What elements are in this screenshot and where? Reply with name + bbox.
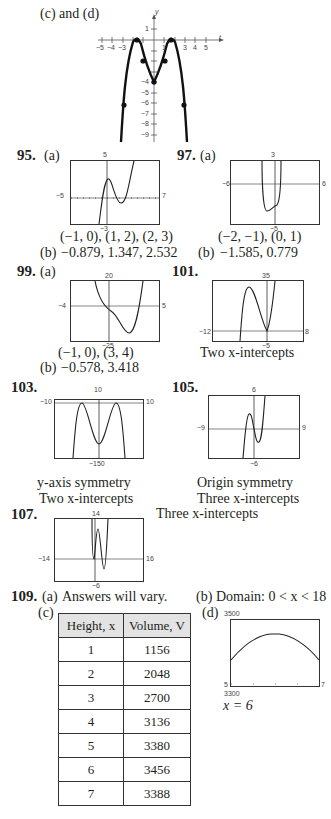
problem-number-103: 103. bbox=[11, 379, 37, 396]
problem-number-99: 99. bbox=[17, 263, 36, 280]
answer-109a: Answers will vary. bbox=[62, 589, 167, 605]
window-ymin: −6 bbox=[92, 582, 100, 589]
window-ymin: −150 bbox=[89, 460, 105, 467]
calculator-screen-95 bbox=[70, 160, 160, 225]
table-row: 43136 bbox=[59, 710, 191, 734]
y-tick: −7 bbox=[141, 110, 149, 117]
window-xmin: 5 bbox=[224, 681, 228, 688]
part-a-label: (a) bbox=[40, 264, 56, 280]
zeros-99: −0.578, 3.418 bbox=[61, 360, 139, 376]
window-ymax: 35 bbox=[262, 272, 270, 279]
part-d-label: (d) bbox=[202, 605, 218, 621]
answer-109d: x = 6 bbox=[223, 698, 253, 714]
part-a-label: (a) bbox=[200, 148, 216, 164]
x-tick: 5 bbox=[204, 44, 208, 51]
volume-table: Height, x Volume, V 11156 22048 32700 43… bbox=[58, 613, 191, 806]
problem-number-101: 101. bbox=[172, 263, 198, 280]
window-ymax: 3 bbox=[271, 151, 275, 158]
window-xmax: 7 bbox=[162, 192, 166, 199]
problem-number-97: 97. bbox=[177, 147, 196, 164]
answer-109b: Domain: 0 < x < 18 bbox=[216, 589, 326, 605]
x-tick: −3 bbox=[118, 44, 126, 51]
note-103-intercepts: Two x-intercepts bbox=[39, 491, 133, 507]
window-xmax: 10 bbox=[146, 398, 154, 405]
window-xmax: 7 bbox=[321, 681, 325, 688]
calculator-screen-97 bbox=[230, 160, 320, 225]
quartic-curve-plot bbox=[95, 8, 225, 143]
cell-volume: 3136 bbox=[124, 710, 191, 734]
y-tick: −6 bbox=[141, 99, 149, 106]
window-ymax: 5 bbox=[103, 151, 107, 158]
part-a-label: (a) bbox=[42, 589, 58, 605]
table-row: 73388 bbox=[59, 782, 191, 806]
y-tick: −8 bbox=[141, 120, 149, 127]
calculator-screen-109d bbox=[230, 619, 320, 687]
cell-height: 1 bbox=[59, 638, 124, 662]
problem-number-107: 107. bbox=[11, 506, 37, 523]
y-axis-label: y bbox=[155, 8, 159, 15]
window-xmin: −5 bbox=[56, 192, 64, 199]
window-ymin: −6 bbox=[250, 460, 258, 467]
table-row: 11156 bbox=[59, 638, 191, 662]
window-ymax: 20 bbox=[105, 272, 113, 279]
window-xmax: 8 bbox=[305, 328, 309, 335]
note-105-intercepts: Three x-intercepts bbox=[197, 491, 299, 507]
cell-height: 6 bbox=[59, 758, 124, 782]
window-ymin: 3300 bbox=[224, 690, 240, 697]
window-xmax: 6 bbox=[322, 180, 326, 187]
problem-number-105: 105. bbox=[172, 379, 198, 396]
part-a-label: (a) bbox=[44, 148, 60, 164]
cell-height: 5 bbox=[59, 734, 124, 758]
cell-volume: 1156 bbox=[124, 638, 191, 662]
window-xmin: −4 bbox=[58, 302, 66, 309]
table-row: 22048 bbox=[59, 662, 191, 686]
y-tick: −4 bbox=[141, 78, 149, 85]
part-b-label: (b) bbox=[40, 245, 56, 261]
part-b-label: (b) bbox=[198, 245, 214, 261]
window-xmin: −12 bbox=[199, 328, 211, 335]
x-tick: −5 bbox=[96, 44, 104, 51]
window-ymax: 6 bbox=[252, 386, 256, 393]
zeros-97: −1.585, 0.779 bbox=[220, 245, 298, 261]
calculator-screen-105 bbox=[208, 395, 300, 459]
header-volume: Volume, V bbox=[124, 614, 191, 638]
x-tick: 1 bbox=[162, 44, 166, 51]
calculator-screen-99 bbox=[70, 280, 160, 342]
intervals-95: (−1, 0), (1, 2), (2, 3) bbox=[60, 229, 173, 245]
x-tick: 4 bbox=[193, 44, 197, 51]
window-ymax: 10 bbox=[94, 386, 102, 393]
problem-number-95: 95. bbox=[17, 147, 36, 164]
part-b-label: (b) bbox=[40, 360, 56, 376]
window-xmin: −10 bbox=[40, 398, 52, 405]
window-ymax: 14 bbox=[92, 510, 100, 517]
top-graph: y t −5 −4 −3 1 3 4 5 1 −4 −5 −6 −7 −8 −9 bbox=[95, 8, 225, 143]
note-101: Two x-intercepts bbox=[200, 345, 294, 361]
window-ymax: 3500 bbox=[224, 610, 240, 617]
window-xmax: 5 bbox=[162, 302, 166, 309]
cell-volume: 3380 bbox=[124, 734, 191, 758]
cell-volume: 3456 bbox=[124, 758, 191, 782]
x-tick: 3 bbox=[183, 44, 187, 51]
y-tick: 1 bbox=[145, 25, 149, 32]
window-xmin: −6 bbox=[222, 180, 230, 187]
table-row: 63456 bbox=[59, 758, 191, 782]
problem-number-109: 109. bbox=[11, 588, 37, 605]
window-xmin: −14 bbox=[38, 555, 50, 562]
table-header-row: Height, x Volume, V bbox=[59, 614, 191, 638]
y-tick: −9 bbox=[141, 131, 149, 138]
table-row: 32700 bbox=[59, 686, 191, 710]
zeros-95: −0.879, 1.347, 2.532 bbox=[61, 245, 177, 261]
note-105-symmetry: Origin symmetry bbox=[197, 475, 293, 491]
y-tick: −5 bbox=[141, 89, 149, 96]
t-axis-label: t bbox=[219, 34, 221, 41]
cell-volume: 3388 bbox=[124, 782, 191, 806]
calculator-screen-107 bbox=[54, 518, 144, 582]
note-107: Three x-intercepts bbox=[156, 506, 258, 522]
x-tick: −4 bbox=[107, 44, 115, 51]
cell-height: 4 bbox=[59, 710, 124, 734]
window-xmin: −9 bbox=[197, 424, 205, 431]
note-103-symmetry: y-axis symmetry bbox=[37, 475, 131, 491]
part-b-label: (b) bbox=[196, 589, 212, 605]
cell-volume: 2700 bbox=[124, 686, 191, 710]
cell-volume: 2048 bbox=[124, 662, 191, 686]
